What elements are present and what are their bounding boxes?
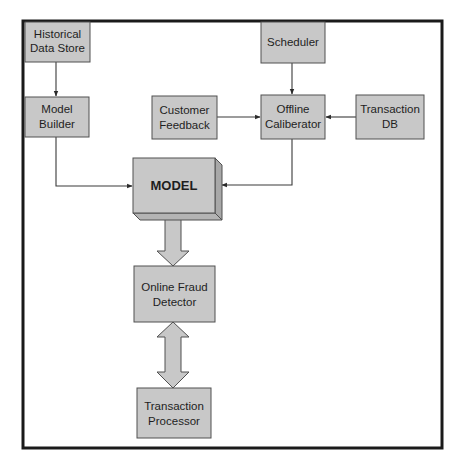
node-online-fraud-detector[interactable]: Online Fraud Detector [134, 266, 215, 322]
node-label: DB [382, 118, 398, 130]
node-transaction-processor[interactable]: Transaction Processor [137, 388, 211, 438]
node-label: Feedback [159, 119, 210, 131]
node-label: Customer [160, 104, 210, 116]
node-label: Model [41, 103, 72, 115]
model-side-face [215, 158, 222, 220]
node-label: Historical [34, 28, 81, 40]
node-model[interactable]: MODEL [133, 158, 222, 220]
model-bottom-face [133, 213, 222, 220]
node-label: Detector [153, 296, 197, 308]
node-label: Offline [276, 103, 309, 115]
node-label: Scheduler [267, 36, 319, 48]
node-label: Builder [39, 118, 75, 130]
node-model-builder[interactable]: Model Builder [25, 97, 89, 137]
node-label: Online Fraud [141, 281, 207, 293]
node-label: Transaction [360, 103, 420, 115]
fraud-detection-diagram: Historical Data Store Model Builder Cust… [0, 0, 462, 465]
node-label: Caliberator [265, 118, 321, 130]
node-customer-feedback[interactable]: Customer Feedback [152, 96, 217, 139]
diagram-frame [23, 21, 442, 448]
node-label: MODEL [151, 178, 198, 193]
node-historical-data-store[interactable]: Historical Data Store [25, 22, 90, 62]
node-scheduler[interactable]: Scheduler [261, 22, 325, 63]
node-label: Transaction [144, 400, 204, 412]
node-label: Data Store [30, 42, 85, 54]
node-offline-caliberator[interactable]: Offline Caliberator [261, 95, 325, 139]
node-label: Processor [148, 415, 200, 427]
node-transaction-db[interactable]: Transaction DB [356, 95, 424, 139]
